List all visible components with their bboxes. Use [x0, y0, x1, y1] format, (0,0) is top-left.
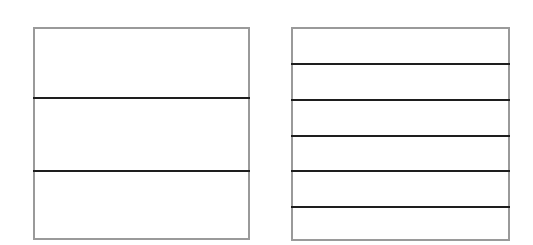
divider-line: [291, 206, 510, 208]
divider-line: [291, 63, 510, 65]
divider-line: [33, 97, 250, 99]
divider-line: [291, 170, 510, 172]
divider-line: [291, 99, 510, 101]
left-rectangle: [33, 27, 250, 240]
divider-line: [33, 170, 250, 172]
right-rectangle: [291, 27, 510, 241]
divider-line: [291, 135, 510, 137]
